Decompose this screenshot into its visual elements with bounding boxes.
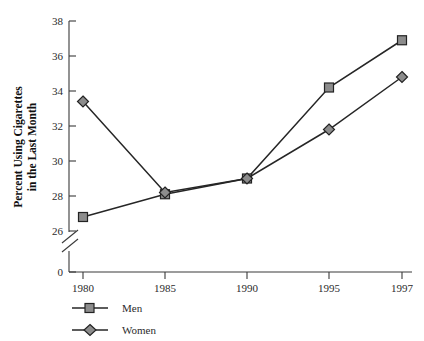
data-point-square[interactable]: [79, 213, 88, 222]
line-chart: 38 36 34 32 30 28 26 0 Percent Using Cig…: [0, 0, 424, 341]
x-tick-label-1990: 1990: [236, 282, 259, 294]
chart-background: [0, 0, 424, 341]
x-tick-label-1985: 1985: [154, 282, 177, 294]
data-point-square[interactable]: [325, 83, 334, 92]
y-tick-label-30: 30: [52, 155, 64, 167]
data-point-square[interactable]: [398, 36, 407, 45]
y-tick-label-28: 28: [52, 190, 64, 202]
y-tick-label-36: 36: [52, 50, 64, 62]
y-tick-label-34: 34: [52, 85, 64, 97]
y-axis-title-line-1: Percent Using Cigarettes: [12, 86, 25, 208]
x-tick-label-1995: 1995: [318, 282, 341, 294]
legend-label-men: Men: [122, 302, 143, 314]
legend-square-marker-icon: [85, 304, 94, 313]
x-tick-label-1980: 1980: [72, 282, 95, 294]
legend-label-women: Women: [122, 324, 156, 336]
y-tick-label-0: 0: [58, 266, 64, 278]
y-tick-label-26: 26: [52, 225, 64, 237]
y-axis-title-line-2: in the Last Month: [26, 102, 38, 191]
x-tick-label-1997: 1997: [391, 282, 414, 294]
y-tick-label-38: 38: [52, 15, 64, 27]
y-tick-label-32: 32: [52, 120, 63, 132]
chart-figure: 38 36 34 32 30 28 26 0 Percent Using Cig…: [0, 0, 424, 341]
